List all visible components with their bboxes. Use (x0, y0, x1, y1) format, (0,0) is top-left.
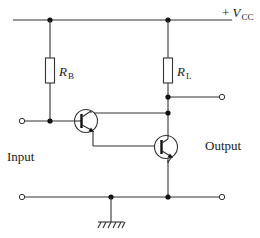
rb-symbol: R (59, 64, 67, 79)
input-terminal-top (19, 118, 24, 123)
junction-dot (165, 194, 170, 199)
resistor-rb (46, 20, 55, 121)
output-terminal-bottom (219, 194, 224, 199)
junction-dot (165, 94, 170, 99)
vcc-subscript: CC (242, 12, 254, 22)
rl-symbol: R (177, 64, 185, 79)
output-terminal-top (219, 94, 224, 99)
transistor-q1 (75, 110, 98, 147)
ground-icon (98, 197, 125, 228)
rb-subscript: B (68, 71, 74, 81)
vcc-prefix: + (222, 5, 233, 20)
vcc-symbol: V (233, 5, 241, 20)
output-label: Output (205, 139, 241, 152)
output-tap (165, 94, 224, 99)
rl-label: RL (177, 65, 191, 78)
rl-subscript: L (186, 71, 192, 81)
junction-dot (165, 110, 170, 115)
input-label: Input (7, 150, 34, 163)
rb-label: RB (59, 65, 74, 78)
q1-collector-wire (91, 110, 171, 115)
ground-rail (19, 194, 224, 199)
circuit-schematic (0, 0, 260, 238)
transistor-q2 (155, 135, 178, 197)
vcc-label: + VCC (222, 6, 254, 19)
junction-dot (47, 118, 52, 123)
input-terminal-bottom (19, 194, 24, 199)
vcc-rail (13, 17, 232, 22)
input-line (19, 118, 81, 123)
